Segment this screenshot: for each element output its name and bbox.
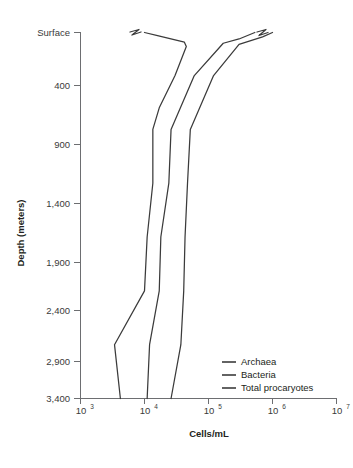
x-tick-exponent-1e6: 6	[282, 403, 286, 410]
x-tick-base-1e4: 10	[140, 405, 151, 416]
x-tick-exponent-1e3: 3	[90, 403, 94, 410]
legend-entry-total-procaryotes[interactable]: Total procaryotes	[222, 382, 314, 393]
depth-profile-figure: Surface 400 900 1,400 1,900 2,400 2,900 …	[0, 0, 353, 468]
y-tick-label-1400: 1,400	[46, 198, 70, 209]
y-tick-label-3400: 3,400	[46, 393, 70, 404]
x-tick-label-1e7: 10 7	[332, 403, 350, 416]
legend: Archaea Bacteria Total procaryotes	[222, 356, 314, 393]
legend-label-total-procaryotes: Total procaryotes	[241, 382, 314, 393]
y-axis-title: Depth (meters)	[15, 199, 26, 266]
y-axis-ticks	[74, 33, 81, 399]
y-tick-label-surface: Surface	[37, 27, 70, 38]
series-line-bacteria	[147, 33, 255, 399]
x-axis-title: Cells/mL	[189, 428, 229, 439]
break-mark-archaea	[130, 30, 141, 36]
x-tick-exponent-1e7: 7	[346, 403, 350, 410]
legend-entry-archaea[interactable]: Archaea	[222, 356, 277, 367]
legend-label-bacteria: Bacteria	[241, 369, 277, 380]
chart-canvas: Surface 400 900 1,400 1,900 2,400 2,900 …	[0, 0, 353, 468]
x-tick-exponent-1e4: 4	[154, 403, 158, 410]
series-line-total-procaryotes	[171, 33, 272, 399]
x-tick-exponent-1e5: 5	[218, 403, 222, 410]
series-group	[115, 33, 273, 399]
legend-label-archaea: Archaea	[241, 356, 277, 367]
y-axis-tick-labels: Surface 400 900 1,400 1,900 2,400 2,900 …	[37, 27, 70, 404]
x-tick-base-1e5: 10	[204, 405, 215, 416]
y-tick-label-900: 900	[54, 139, 70, 150]
x-tick-base-1e7: 10	[332, 405, 343, 416]
y-tick-label-2900: 2,900	[46, 356, 70, 367]
y-tick-label-400: 400	[54, 80, 70, 91]
x-tick-base-1e3: 10	[76, 405, 87, 416]
x-tick-label-1e5: 10 5	[204, 403, 222, 416]
series-line-archaea	[115, 33, 187, 399]
x-axis-tick-labels: 10 3 10 4 10 5 10 6 10 7	[76, 403, 350, 416]
x-axis-ticks	[81, 399, 337, 405]
x-tick-base-1e6: 10	[268, 405, 279, 416]
legend-entry-bacteria[interactable]: Bacteria	[222, 369, 277, 380]
x-tick-label-1e3: 10 3	[76, 403, 94, 416]
x-tick-label-1e6: 10 6	[268, 403, 286, 416]
y-tick-label-2400: 2,400	[46, 305, 70, 316]
x-tick-label-1e4: 10 4	[140, 403, 158, 416]
y-tick-label-1900: 1,900	[46, 257, 70, 268]
